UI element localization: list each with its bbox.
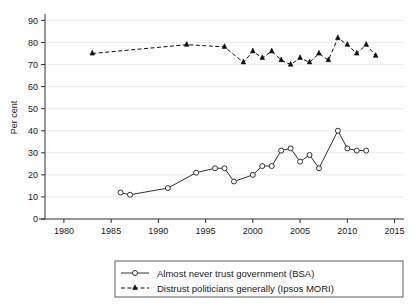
data-point-marker xyxy=(307,59,312,64)
data-point-marker xyxy=(354,148,359,153)
data-point-marker xyxy=(279,57,284,62)
data-point-marker xyxy=(364,148,369,153)
x-tick-label: 1995 xyxy=(196,226,216,236)
data-point-marker xyxy=(317,50,322,55)
y-tick-label: 50 xyxy=(28,104,38,114)
y-tick-label: 20 xyxy=(28,170,38,180)
x-tick-label: 2010 xyxy=(337,226,357,236)
data-point-marker xyxy=(241,59,246,64)
x-axis: 19801985199019952000200520102015 xyxy=(39,219,405,236)
data-point-marker xyxy=(336,35,341,40)
y-tick-label: 40 xyxy=(28,126,38,136)
data-point-marker xyxy=(194,170,199,175)
chart-container: 0102030405060708090 19801985199019952000… xyxy=(0,0,418,307)
x-tick-label: 1985 xyxy=(101,226,121,236)
legend-label: Distrust politicians generally (Ipsos MO… xyxy=(157,283,334,294)
data-point-marker xyxy=(118,190,123,195)
y-tick-label: 80 xyxy=(28,38,38,48)
legend-marker xyxy=(133,271,138,276)
y-axis-title-text: Per cent xyxy=(9,100,19,134)
data-point-marker xyxy=(222,166,227,171)
data-point-marker xyxy=(316,166,321,171)
y-tick-label: 60 xyxy=(28,82,38,92)
y-tick-label: 70 xyxy=(28,60,38,70)
series-line xyxy=(121,131,367,195)
data-point-marker xyxy=(298,55,303,60)
data-point-marker xyxy=(335,128,340,133)
data-point-marker xyxy=(260,164,265,169)
data-point-marker xyxy=(373,53,378,58)
data-point-marker xyxy=(165,186,170,191)
data-point-marker xyxy=(354,50,359,55)
data-point-marker xyxy=(128,192,133,197)
data-point-marker xyxy=(269,164,274,169)
x-tick-label: 2015 xyxy=(385,226,405,236)
data-point-marker xyxy=(231,179,236,184)
data-point-marker xyxy=(213,166,218,171)
data-point-marker xyxy=(288,146,293,151)
data-point-marker xyxy=(90,50,95,55)
x-tick-label: 1990 xyxy=(148,226,168,236)
data-point-marker xyxy=(345,146,350,151)
legend-label: Almost never trust government (BSA) xyxy=(157,268,314,279)
data-point-marker xyxy=(250,172,255,177)
y-axis: 0102030405060708090 xyxy=(28,14,45,224)
x-tick-label: 1980 xyxy=(54,226,74,236)
data-point-marker xyxy=(269,48,274,53)
series-group xyxy=(90,35,378,197)
series-mori xyxy=(90,35,378,66)
data-point-marker xyxy=(222,44,227,49)
data-point-marker xyxy=(251,48,256,53)
y-tick-label: 0 xyxy=(33,214,38,224)
y-axis-title: Per cent xyxy=(9,100,19,134)
x-tick-label: 2000 xyxy=(243,226,263,236)
y-tick-label: 10 xyxy=(28,192,38,202)
series-bsa xyxy=(118,128,369,197)
data-point-marker xyxy=(298,159,303,164)
legend: Almost never trust government (BSA)Distr… xyxy=(115,261,403,297)
y-tick-label: 90 xyxy=(28,16,38,26)
data-point-marker xyxy=(279,148,284,153)
x-tick-label: 2005 xyxy=(290,226,310,236)
y-tick-label: 30 xyxy=(28,148,38,158)
data-point-marker xyxy=(307,153,312,158)
line-chart: 0102030405060708090 19801985199019952000… xyxy=(0,0,418,307)
